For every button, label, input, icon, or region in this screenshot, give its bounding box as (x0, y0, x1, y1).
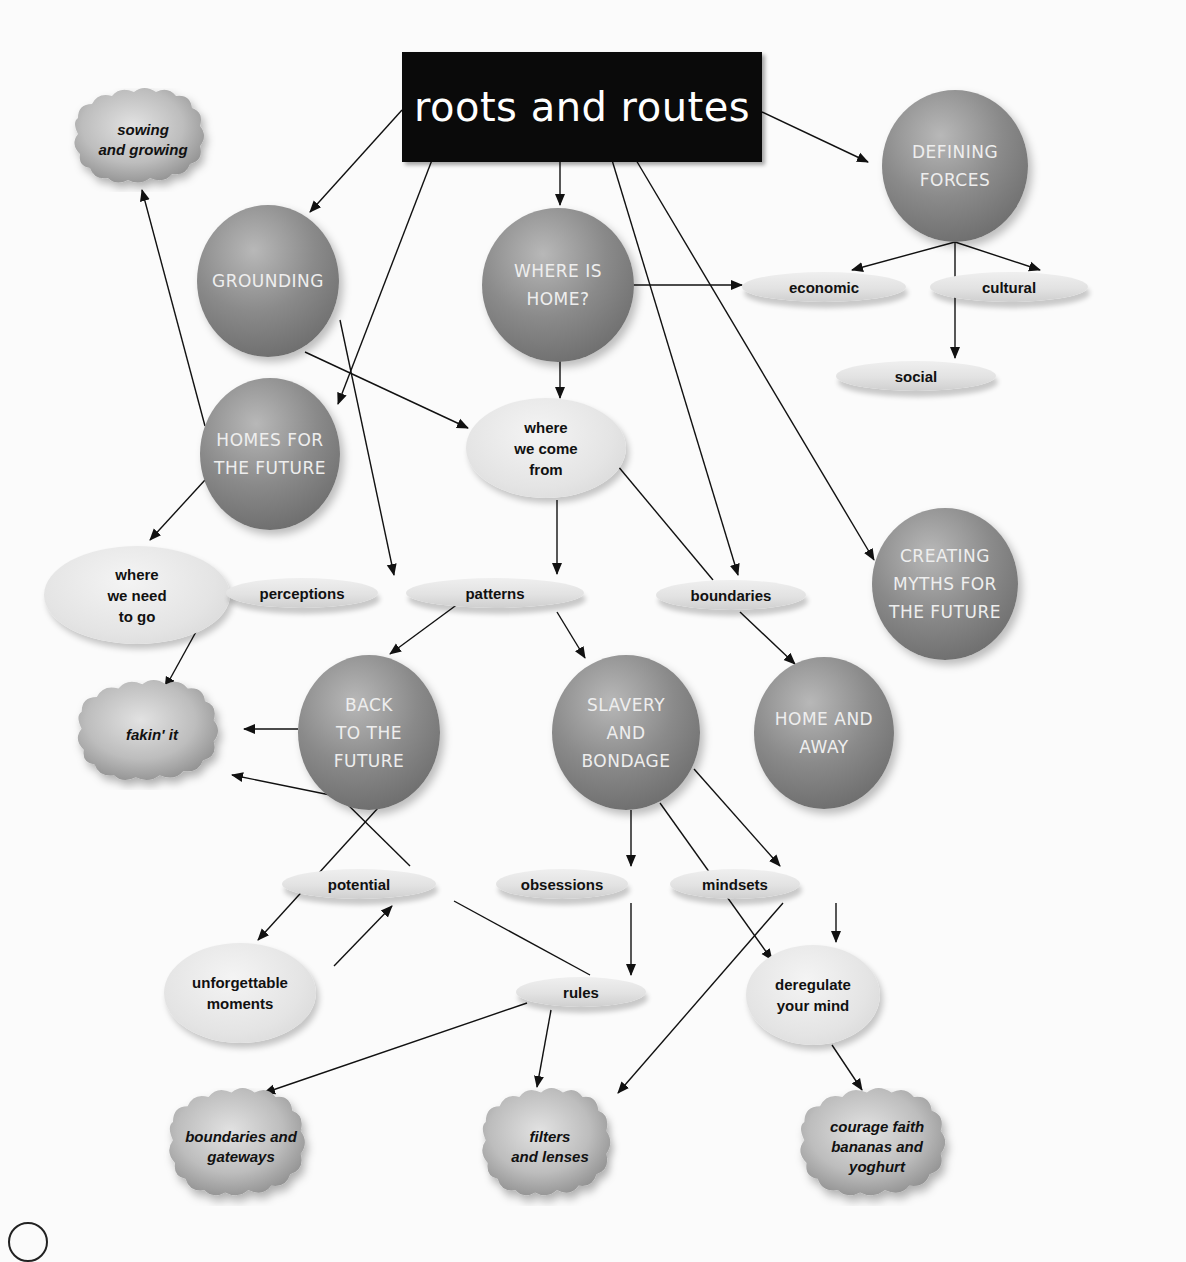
pill-label: social (895, 368, 938, 385)
ellipse-label: deregulate your mind (775, 974, 851, 1016)
sphere-label: SLAVERY AND BONDAGE (582, 691, 671, 775)
edge-unforgettable-potential (334, 906, 392, 966)
pill-label: patterns (465, 585, 524, 602)
edge-patterns-slavery (557, 612, 585, 658)
cloud-fakin-it[interactable]: fakin' it (60, 680, 244, 790)
title-node[interactable]: roots and routes (402, 52, 762, 162)
sphere-defining-forces[interactable]: DEFINING FORCES (882, 90, 1028, 242)
pill-rules[interactable]: rules (516, 977, 646, 1007)
ellipse-where-we-come-from[interactable]: where we come from (466, 398, 626, 498)
pill-perceptions[interactable]: perceptions (226, 578, 378, 608)
ellipse-label: unforgettable moments (192, 972, 288, 1014)
cloud-label: boundaries and gateways (185, 1127, 297, 1167)
edge-homes-needgo (150, 480, 205, 540)
edge-potential-rules (454, 901, 590, 975)
edge-title-boundaries (612, 160, 738, 575)
pill-label: obsessions (521, 876, 604, 893)
sphere-creating-myths[interactable]: CREATING MYTHS FOR THE FUTURE (872, 508, 1018, 660)
sphere-back-to-the-future[interactable]: BACK TO THE FUTURE (298, 655, 440, 810)
pill-label: economic (789, 279, 859, 296)
sphere-slavery-and-bondage[interactable]: SLAVERY AND BONDAGE (552, 655, 700, 810)
edge-title-homes-future (338, 160, 432, 404)
edge-forces-cultural (955, 242, 1040, 270)
cloud-filters-and-lenses[interactable]: filters and lenses (466, 1088, 634, 1206)
pill-obsessions[interactable]: obsessions (496, 869, 628, 899)
pill-label: potential (328, 876, 391, 893)
edge-title-grounding (310, 110, 402, 212)
page-number-circle (8, 1222, 48, 1262)
pill-cultural[interactable]: cultural (930, 272, 1088, 302)
sphere-homes-for-the-future[interactable]: HOMES FOR THE FUTURE (200, 378, 340, 530)
sphere-grounding[interactable]: GROUNDING (197, 205, 339, 357)
pill-label: cultural (982, 279, 1036, 296)
edge-title-defining-forces (762, 112, 868, 162)
sphere-label: BACK TO THE FUTURE (334, 691, 405, 775)
cloud-boundaries-and-gateways[interactable]: boundaries and gateways (152, 1088, 330, 1206)
edge-homes-sowing (142, 190, 205, 426)
ellipse-label: where we need to go (107, 564, 166, 627)
edge-title-creating-myths (636, 160, 874, 560)
edge-slavery-mindsets (694, 769, 780, 866)
pill-mindsets[interactable]: mindsets (670, 869, 800, 899)
pill-label: boundaries (691, 587, 772, 604)
pill-social[interactable]: social (836, 361, 996, 391)
pill-boundaries[interactable]: boundaries (656, 580, 806, 610)
ellipse-where-we-need-to-go[interactable]: where we need to go (44, 546, 230, 644)
pill-label: rules (563, 984, 599, 1001)
edge-grounding-perceptions (340, 320, 394, 575)
sphere-label: CREATING MYTHS FOR THE FUTURE (889, 542, 1001, 626)
sphere-label: WHERE IS HOME? (514, 257, 602, 313)
cloud-sowing-and-growing[interactable]: sowing and growing (58, 88, 228, 192)
ellipse-label: where we come from (514, 417, 577, 480)
cloud-label: fakin' it (126, 725, 178, 745)
pill-potential[interactable]: potential (282, 869, 436, 899)
edge-forces-economic (852, 242, 955, 270)
edge-deregulate-courage (832, 1045, 862, 1090)
cloud-label: sowing and growing (98, 120, 187, 160)
sphere-label: HOME AND AWAY (775, 705, 873, 761)
cloud-courage-faith[interactable]: courage faith bananas and yoghurt (782, 1088, 972, 1206)
sphere-label: DEFINING FORCES (912, 138, 998, 194)
pill-economic[interactable]: economic (742, 272, 906, 302)
pill-patterns[interactable]: patterns (406, 578, 584, 608)
pill-label: perceptions (259, 585, 344, 602)
sphere-label: GROUNDING (212, 267, 324, 295)
ellipse-deregulate-your-mind[interactable]: deregulate your mind (746, 945, 880, 1045)
ellipse-unforgettable-moments[interactable]: unforgettable moments (164, 943, 316, 1043)
edge-rules-filters (537, 1010, 551, 1087)
pill-label: mindsets (702, 876, 768, 893)
edge-boundaries-homeaway (740, 612, 795, 664)
cloud-label: filters and lenses (511, 1127, 589, 1167)
cloud-label: courage faith bananas and yoghurt (830, 1117, 924, 1177)
sphere-home-and-away[interactable]: HOME AND AWAY (754, 657, 894, 809)
title-text: roots and routes (414, 84, 750, 130)
sphere-where-is-home[interactable]: WHERE IS HOME? (482, 208, 634, 362)
edge-wherefrom-boundaries (617, 465, 713, 580)
sphere-label: HOMES FOR THE FUTURE (214, 426, 326, 482)
